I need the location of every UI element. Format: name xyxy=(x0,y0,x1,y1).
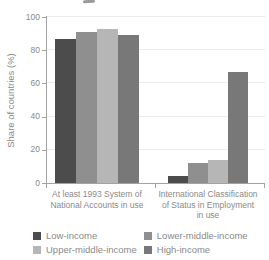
bar-low-income-group2 xyxy=(168,176,188,183)
category-label-2: International Classification of Status i… xyxy=(151,189,265,221)
y-tick-label-20: 20 xyxy=(20,145,40,154)
bar-high-income-group1 xyxy=(118,35,139,183)
bar-upper-middle-income-group2 xyxy=(208,160,228,183)
legend-label: High-income xyxy=(157,244,210,255)
y-tick-mark-60 xyxy=(42,83,47,84)
category-label-1: At least 1993 System of National Account… xyxy=(40,189,154,210)
legend-item-upper-middle-income: Upper-middle-income xyxy=(33,244,137,255)
y-tick-mark-40 xyxy=(42,117,47,118)
y-tick-label-60: 60 xyxy=(20,79,40,88)
y-tick-mark-20 xyxy=(42,150,47,151)
y-axis-line xyxy=(46,16,47,184)
bar-upper-middle-income-group1 xyxy=(97,29,118,183)
legend-swatch xyxy=(33,246,41,254)
legend-swatch xyxy=(144,246,152,254)
legend-swatch xyxy=(144,232,152,240)
legend-item-low-income: Low-income xyxy=(33,230,137,241)
y-tick-label-0: 0 xyxy=(20,179,40,188)
y-tick-mark-80 xyxy=(42,50,47,51)
bar-lower-middle-income-group1 xyxy=(76,32,97,183)
bar-chart: Share of countries (%) 020406080100 At l… xyxy=(0,0,269,260)
y-tick-mark-100 xyxy=(42,17,47,18)
legend-label: Upper-middle-income xyxy=(46,244,137,255)
legend-label: Lower-middle-income xyxy=(157,230,248,241)
gridline-100 xyxy=(47,16,265,17)
cropped-title-fragment xyxy=(83,0,95,3)
legend-item-high-income: High-income xyxy=(144,244,248,255)
plot-area xyxy=(47,17,265,183)
bar-high-income-group2 xyxy=(228,72,248,183)
y-tick-label-80: 80 xyxy=(20,46,40,55)
y-tick-label-40: 40 xyxy=(20,112,40,121)
x-tick-mark-1 xyxy=(155,183,156,188)
bar-low-income-group1 xyxy=(55,39,76,183)
legend-item-lower-middle-income: Lower-middle-income xyxy=(144,230,248,241)
x-tick-mark-0 xyxy=(46,183,47,188)
x-tick-mark-2 xyxy=(264,183,265,188)
y-tick-label-100: 100 xyxy=(20,13,40,22)
legend-label: Low-income xyxy=(46,230,97,241)
chart-legend: Low-incomeLower-middle-incomeUpper-middl… xyxy=(33,230,248,255)
bar-lower-middle-income-group2 xyxy=(188,163,208,183)
legend-swatch xyxy=(33,232,41,240)
y-axis-title: Share of countries (%) xyxy=(5,46,16,156)
